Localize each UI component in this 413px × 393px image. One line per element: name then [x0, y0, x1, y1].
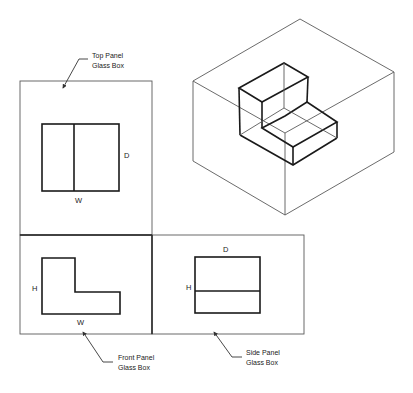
top-leader-arrow-icon: [63, 59, 88, 88]
side-callout-line2: Glass Box: [246, 359, 278, 366]
side-view-outline: [195, 257, 260, 313]
outer-box-top-front-edges: [193, 72, 394, 133]
side-callout-line1: Side Panel: [246, 349, 280, 356]
isometric-l-object: [239, 63, 337, 165]
callout-side: Side Panel Glass Box: [214, 332, 280, 366]
top-callout-line2: Glass Box: [92, 62, 124, 69]
front-view: H W: [32, 258, 120, 327]
outer-box-outline: [193, 19, 394, 215]
front-callout-line2: Glass Box: [118, 364, 150, 371]
front-panel: [20, 235, 152, 334]
callout-top: Top Panel Glass Box: [63, 52, 124, 88]
top-view: D W: [42, 124, 130, 205]
top-view-width-label: W: [75, 196, 83, 205]
tall-block-top-face: [239, 63, 308, 102]
front-view-l-outline: [42, 258, 120, 314]
top-view-depth-label: D: [124, 151, 130, 160]
front-callout-line1: Front Panel: [118, 354, 155, 361]
side-view-depth-label: D: [223, 245, 229, 254]
top-callout-line1: Top Panel: [92, 52, 124, 60]
top-view-outline: [42, 124, 119, 191]
side-leader-arrow-icon: [214, 332, 242, 357]
side-view: D H: [186, 245, 260, 313]
front-leader-arrow-icon: [83, 332, 113, 362]
bottom-edges: [240, 135, 337, 165]
isometric-glass-box: [193, 19, 394, 215]
side-view-height-label: H: [186, 283, 191, 292]
hidden-bottom-right-edge: [284, 108, 337, 138]
glass-box-diagram: D W H W D H Top Panel Glass Box Front Pa…: [0, 0, 413, 393]
front-view-height-label: H: [32, 284, 37, 293]
top-panel: [20, 81, 152, 235]
callout-front: Front Panel Glass Box: [83, 332, 155, 371]
left-vertical-edge: [239, 88, 240, 135]
tall-right-vertical-edge: [307, 77, 308, 102]
front-view-width-label: W: [77, 318, 85, 327]
